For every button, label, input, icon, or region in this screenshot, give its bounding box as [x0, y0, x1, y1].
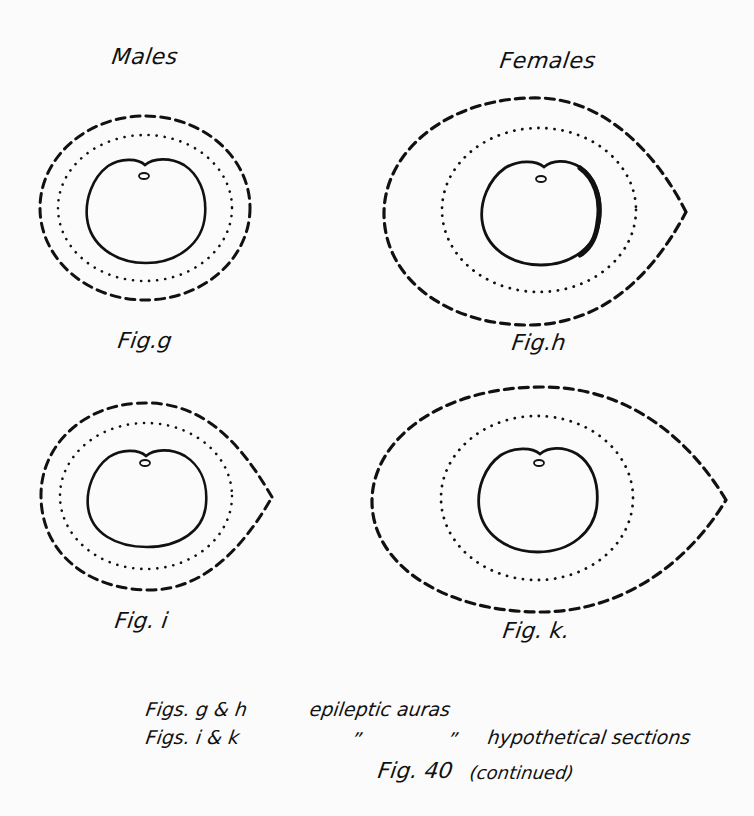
dotted-boundary	[442, 128, 636, 292]
figure-label-i: Fig. i	[113, 608, 169, 633]
figure-h	[384, 98, 686, 325]
legend-text-hypothetical-sections: hypothetical sections	[486, 726, 692, 748]
outer-dashed-boundary	[40, 116, 250, 300]
cell-outline	[87, 159, 206, 263]
figure-g	[40, 116, 250, 300]
caption-fig-number: Fig. 40	[376, 758, 454, 783]
outer-dashed-boundary	[384, 98, 686, 325]
figure-label-h: Fig.h	[510, 330, 567, 355]
caption-note: (continued)	[469, 762, 576, 783]
nucleus-icon	[534, 460, 544, 466]
nucleus-icon	[536, 176, 546, 182]
figure-label-k: Fig. k.	[501, 618, 571, 643]
dotted-boundary	[441, 416, 633, 580]
nucleus-icon	[140, 460, 150, 466]
aura-diagram	[0, 0, 754, 816]
figure-k	[372, 387, 726, 612]
cell-outline	[88, 450, 207, 547]
figure-label-g: Fig.g	[116, 328, 173, 353]
legend-figs-g-h: Figs. g & h	[144, 698, 248, 720]
cell-outline	[479, 448, 598, 552]
cell-outline	[482, 161, 601, 265]
legend-figs-i-k: Figs. i & k	[144, 726, 241, 748]
figure-i	[41, 403, 272, 590]
legend-text-epileptic-auras: epileptic auras	[308, 698, 451, 720]
cell-thick-edge	[580, 168, 599, 255]
outer-dashed-boundary	[372, 387, 726, 612]
outer-dashed-boundary	[41, 403, 272, 590]
nucleus-icon	[139, 173, 149, 179]
